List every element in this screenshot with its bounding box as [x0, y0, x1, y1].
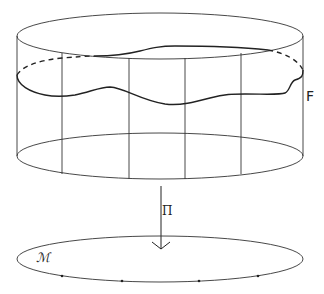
- fiber-space-label: F: [306, 88, 314, 104]
- base-point-2: [121, 280, 124, 283]
- base-manifold-ellipse: [17, 236, 303, 282]
- cylinder-bottom-ellipse: [17, 133, 303, 179]
- section-curve-back-dashed-left: [17, 56, 95, 75]
- section-curve-front: [17, 70, 303, 105]
- projection-label: Π: [162, 204, 172, 218]
- section-curve-back-dashed-right: [268, 50, 303, 70]
- base-point-4: [257, 275, 260, 278]
- base-point-1: [61, 275, 64, 278]
- base-point-3: [198, 280, 201, 283]
- cylinder-top-ellipse: [17, 13, 303, 59]
- base-manifold-label: ℳ: [36, 250, 50, 265]
